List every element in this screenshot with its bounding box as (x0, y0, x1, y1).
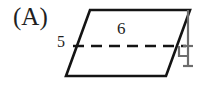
base-length-label: 6 (117, 20, 126, 37)
geometry-figure: (A) 5 6 (0, 0, 207, 89)
parallelogram-outline (66, 10, 190, 76)
side-length-label: 5 (57, 34, 65, 50)
choice-label: (A) (13, 4, 48, 29)
right-angle-marker-icon (179, 46, 188, 56)
